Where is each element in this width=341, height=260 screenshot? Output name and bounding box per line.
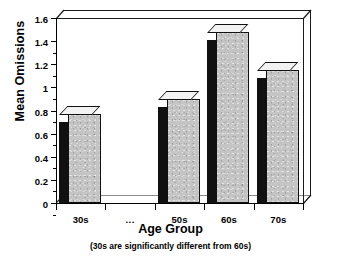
y-tick-label: 1 — [43, 83, 48, 94]
plot-area: 00.20.40.60.811.21.41.6 30s...50s60s70s — [56, 18, 303, 203]
plot-frame-right — [303, 18, 304, 203]
y-tick-label: 0.2 — [35, 175, 48, 186]
y-tick-minor — [53, 145, 57, 146]
y-tick-label: 0.8 — [35, 106, 48, 117]
y-tick-label: 0.6 — [35, 129, 48, 140]
x-tick — [204, 203, 205, 210]
y-tick-0.4: 0.4 — [51, 157, 56, 158]
y-tick-1.4: 1.4 — [51, 41, 56, 42]
bar-chart: Mean Omissions 00.20.40.60.811.21.41.6 3… — [0, 0, 341, 260]
plot-frame-top — [56, 18, 303, 19]
bar-side-face — [207, 40, 216, 203]
x-tick — [254, 203, 255, 210]
y-tick-minor — [53, 122, 57, 123]
x-tick — [303, 203, 304, 210]
y-tick-label: 1.4 — [35, 37, 48, 48]
bar-side-face — [158, 107, 167, 203]
y-tick-label: 1.6 — [35, 14, 48, 25]
y-tick-label: 1.2 — [35, 60, 48, 71]
y-tick-label: 0.4 — [35, 152, 48, 163]
x-axis-line — [56, 203, 303, 204]
y-tick-minor — [53, 215, 57, 216]
y-tick-1: 1 — [51, 87, 56, 88]
x-tick — [155, 203, 156, 210]
y-axis-line — [56, 18, 57, 203]
bar-front-face — [68, 114, 101, 203]
x-tick — [56, 203, 57, 210]
y-tick-0.6: 0.6 — [51, 134, 56, 135]
y-tick-minor — [53, 53, 57, 54]
y-axis-title: Mean Omissions — [13, 11, 27, 131]
chart-footnote: (30s are significantly different from 60… — [0, 241, 341, 251]
bar-70s — [266, 70, 299, 203]
bar-50s — [167, 99, 200, 203]
y-tick-minor — [53, 191, 57, 192]
y-tick-1.2: 1.2 — [51, 64, 56, 65]
bar-60s — [216, 32, 249, 203]
x-axis-title: Age Group — [0, 222, 341, 236]
y-tick-minor — [53, 76, 57, 77]
bar-front-face — [266, 70, 299, 203]
bar-front-face — [167, 99, 200, 203]
y-tick-1.6: 1.6 — [51, 18, 56, 19]
y-tick-0.2: 0.2 — [51, 180, 56, 181]
bar-30s — [68, 114, 101, 203]
bar-front-face — [216, 32, 249, 203]
bar-side-face — [59, 122, 68, 203]
y-tick-label: 0 — [43, 199, 48, 210]
bar-side-face — [257, 78, 266, 203]
x-tick — [105, 203, 106, 210]
y-tick-minor — [53, 168, 57, 169]
y-tick-0.8: 0.8 — [51, 111, 56, 112]
depth-edge-top-right-icon — [302, 9, 313, 20]
y-tick-minor — [53, 99, 57, 100]
